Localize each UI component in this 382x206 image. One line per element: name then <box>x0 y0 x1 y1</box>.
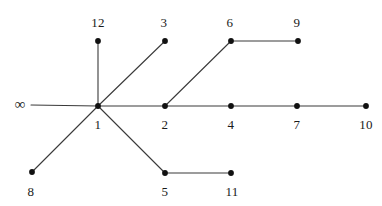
graph-node-8 <box>29 169 35 175</box>
node-label-10: 10 <box>359 118 373 131</box>
node-label-1: 1 <box>95 118 102 131</box>
graph-node-5 <box>162 170 168 176</box>
node-label-11: 11 <box>225 185 238 198</box>
graph-node-10 <box>363 103 369 109</box>
graph-node-3 <box>162 38 168 44</box>
graph-diagram: 123456789101112 ∞ <box>0 0 382 206</box>
graph-edge-2-6 <box>165 41 231 106</box>
graph-edge-1-3 <box>98 41 165 106</box>
graph-node-6 <box>228 38 234 44</box>
graph-edge-1-5 <box>98 106 165 173</box>
graph-edge-infinity-1 <box>31 105 98 106</box>
node-label-9: 9 <box>294 16 301 29</box>
node-label-2: 2 <box>162 118 169 131</box>
edge-layer <box>31 41 366 173</box>
node-label-5: 5 <box>162 185 169 198</box>
node-label-12: 12 <box>91 16 105 29</box>
graph-node-7 <box>294 103 300 109</box>
node-label-6: 6 <box>227 16 234 29</box>
graph-node-1 <box>95 103 101 109</box>
graph-canvas <box>0 0 382 206</box>
node-label-7: 7 <box>294 118 301 131</box>
node-layer <box>29 38 369 176</box>
node-label-8: 8 <box>28 185 35 198</box>
node-label-3: 3 <box>161 16 168 29</box>
graph-node-11 <box>228 170 234 176</box>
graph-node-12 <box>95 38 101 44</box>
node-label-4: 4 <box>228 118 235 131</box>
infinity-label: ∞ <box>15 97 26 112</box>
graph-node-4 <box>228 103 234 109</box>
graph-edge-1-8 <box>32 106 98 172</box>
graph-node-9 <box>295 38 301 44</box>
graph-node-2 <box>162 103 168 109</box>
